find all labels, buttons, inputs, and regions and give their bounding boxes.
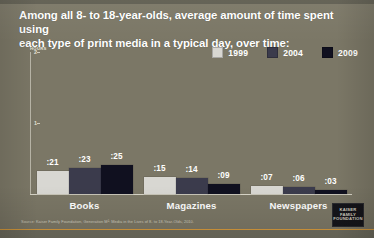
title-line-1: Among all 8- to 18-year-olds, average am… bbox=[19, 9, 333, 35]
category-label-books: Books bbox=[31, 200, 138, 211]
bar-wrap-newspapers-2004[interactable]: :06 bbox=[283, 52, 315, 194]
slide-top-edge bbox=[0, 0, 374, 4]
bar-magazines-2009[interactable] bbox=[208, 184, 240, 194]
bar-value-newspapers-2004: :06 bbox=[283, 174, 315, 183]
bar-value-books-2004: :23 bbox=[69, 155, 101, 164]
bar-wrap-magazines-2004[interactable]: :14 bbox=[176, 52, 208, 194]
bar-value-newspapers-1999: :07 bbox=[251, 173, 283, 182]
bar-newspapers-1999[interactable] bbox=[251, 186, 283, 194]
bar-wrap-books-2004[interactable]: :23 bbox=[69, 52, 101, 194]
slide-canvas: Among all 8- to 18-year-olds, average am… bbox=[0, 0, 374, 238]
bar-value-newspapers-2009: :03 bbox=[315, 177, 347, 186]
bar-books-1999[interactable] bbox=[37, 171, 69, 194]
bar-wrap-magazines-2009[interactable]: :09 bbox=[208, 52, 240, 194]
bar-value-books-1999: :21 bbox=[37, 158, 69, 167]
bar-wrap-books-2009[interactable]: :25 bbox=[101, 52, 133, 194]
bar-books-2009[interactable] bbox=[101, 165, 133, 194]
chart-plot-area: HOURS 2 1 :21 :23 bbox=[30, 52, 352, 195]
bar-group-newspapers: :07 :06 :03 Newspapers bbox=[245, 52, 352, 194]
x-axis-line bbox=[30, 194, 352, 195]
bar-newspapers-2009[interactable] bbox=[315, 190, 347, 194]
bar-wrap-magazines-1999[interactable]: :15 bbox=[144, 52, 176, 194]
bar-books-2004[interactable] bbox=[69, 168, 101, 194]
bar-groups: :21 :23 :25 Books bbox=[31, 52, 352, 194]
bar-value-magazines-2004: :14 bbox=[176, 165, 208, 174]
bar-value-books-2009: :25 bbox=[101, 152, 133, 161]
bar-magazines-1999[interactable] bbox=[144, 177, 176, 194]
bar-wrap-newspapers-2009[interactable]: :03 bbox=[315, 52, 347, 194]
kaiser-family-foundation-logo: KAISER FAMILY FOUNDATION bbox=[332, 203, 364, 227]
page-title: Among all 8- to 18-year-olds, average am… bbox=[19, 8, 359, 50]
bar-group-magazines: :15 :14 :09 Magazines bbox=[138, 52, 245, 194]
source-citation: Source: Kaiser Family Foundation, Genera… bbox=[21, 219, 194, 224]
bar-value-magazines-2009: :09 bbox=[208, 171, 240, 180]
logo-line-3: FOUNDATION bbox=[333, 217, 363, 221]
bottom-band bbox=[0, 230, 374, 238]
bar-wrap-books-1999[interactable]: :21 bbox=[37, 52, 69, 194]
bar-magazines-2004[interactable] bbox=[176, 178, 208, 194]
bar-wrap-newspapers-1999[interactable]: :07 bbox=[251, 52, 283, 194]
bar-newspapers-2004[interactable] bbox=[283, 187, 315, 194]
bar-value-magazines-1999: :15 bbox=[144, 164, 176, 173]
category-label-magazines: Magazines bbox=[138, 200, 245, 211]
bar-group-books: :21 :23 :25 Books bbox=[31, 52, 138, 194]
